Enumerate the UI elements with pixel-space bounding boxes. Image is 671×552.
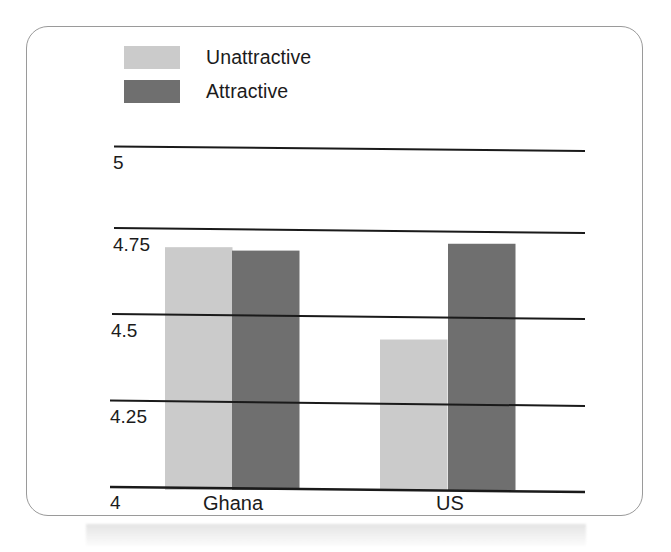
y-tick-label-4-5: 4.5 (111, 320, 137, 342)
chart-legend: Unattractive Attractive (124, 40, 384, 108)
y-tick-label-5: 5 (113, 152, 124, 174)
y-tick-label-4: 4 (110, 492, 121, 514)
x-tick-label-ghana: Ghana (178, 492, 288, 515)
x-tick-label-us: US (400, 492, 500, 515)
chart-screenshot: Unattractive Attractive (0, 0, 671, 552)
legend-label-attractive: Attractive (206, 80, 288, 103)
y-tick-label-4-75: 4.75 (113, 234, 150, 256)
page-scan-smudge (86, 524, 586, 546)
y-tick-label-4-25: 4.25 (110, 406, 147, 428)
legend-swatch-icon-unattractive (124, 46, 180, 69)
legend-item-attractive: Attractive (124, 74, 384, 108)
legend-label-unattractive: Unattractive (206, 46, 311, 69)
legend-item-unattractive: Unattractive (124, 40, 384, 74)
legend-swatch-icon-attractive (124, 80, 180, 103)
